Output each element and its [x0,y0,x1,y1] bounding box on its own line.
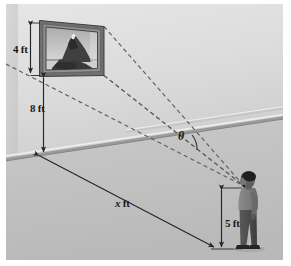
label-painting-height: 4 ft [13,44,28,55]
label-floor-distance: x ft [115,198,130,209]
label-wall-height: 8 ft [30,103,45,114]
diagram-scene [6,4,283,260]
label-viewing-angle: θ [178,130,184,142]
label-floor-distance-unit: ft [120,197,129,209]
painting-frame [40,21,105,77]
diagram-svg [6,4,283,260]
label-eye-height: 5 ft [225,218,240,229]
figure-canvas: 4 ft 8 ft x ft 5 ft θ [0,0,291,266]
eye-point [243,185,246,188]
